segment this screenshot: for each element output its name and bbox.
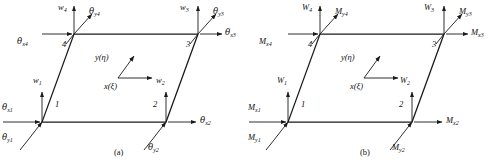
label-theta-x1: θx1 — [2, 103, 13, 112]
label-W1: W1 — [277, 76, 287, 85]
arrow-M-y4 — [320, 14, 338, 34]
label-M-y2: My2 — [392, 143, 405, 152]
label-M-x1: Mx1 — [248, 103, 261, 112]
label-M-y3: My3 — [459, 7, 472, 16]
node-number-1: 1 — [55, 100, 59, 109]
arrow-axis-y — [118, 56, 134, 78]
label-theta-x2: θx2 — [200, 116, 211, 125]
label-M-x4: Mx4 — [259, 37, 272, 46]
caption-b: (b) — [360, 147, 370, 157]
label-M-y4: My4 — [335, 7, 348, 16]
axis-label-x: x(ξ) — [104, 82, 117, 91]
panel-a: w1 θx1 θy1 1 w2 θx2 θy2 2 w3 θx3 θy3 3 w… — [0, 0, 246, 166]
label-theta-y1: θy1 — [2, 133, 13, 142]
axis-label-x: x(ξ) — [350, 82, 363, 91]
label-w2: w2 — [156, 76, 165, 85]
axis-label-y: y(η) — [341, 53, 355, 62]
arrow-M-y1 — [274, 122, 288, 140]
tail-theta-y1 — [20, 140, 28, 150]
node-number-4: 4 — [308, 40, 312, 49]
tail-M-y1 — [266, 140, 274, 150]
label-M-x3: Mx3 — [471, 28, 484, 37]
label-theta-x4: θx4 — [17, 37, 28, 46]
panel-b: W1 Mx1 My1 1 W2 Mx2 My2 2 W3 Mx3 My3 3 W… — [246, 0, 492, 166]
node-number-3: 3 — [186, 40, 190, 49]
arrow-theta-y2 — [152, 122, 166, 140]
label-M-y1: My1 — [248, 133, 261, 142]
label-w1: w1 — [33, 76, 42, 85]
label-w4: w4 — [58, 3, 67, 12]
label-w3: w3 — [180, 3, 189, 12]
label-theta-y2: θy2 — [148, 143, 159, 152]
label-W4: W4 — [302, 3, 312, 12]
arrow-M-y3 — [444, 14, 462, 34]
figure-root: w1 θx1 θy1 1 w2 θx2 θy2 2 w3 θx3 θy3 3 w… — [0, 0, 492, 166]
node-number-1: 1 — [301, 100, 305, 109]
arrow-theta-y1 — [28, 122, 42, 140]
label-M-x2: Mx2 — [446, 116, 459, 125]
arrow-axis-y — [364, 56, 380, 78]
label-theta-y3: θy3 — [213, 7, 224, 16]
arrow-theta-y4 — [74, 14, 92, 34]
label-W3: W3 — [424, 3, 434, 12]
node-number-4: 4 — [62, 40, 66, 49]
node-number-2: 2 — [399, 100, 403, 109]
label-theta-x3: θx3 — [225, 28, 236, 37]
node-number-2: 2 — [153, 100, 157, 109]
label-W2: W2 — [400, 76, 410, 85]
arrow-M-y2 — [398, 122, 412, 140]
label-theta-y4: θy4 — [89, 7, 100, 16]
node-number-3: 3 — [432, 40, 436, 49]
axis-label-y: y(η) — [95, 53, 109, 62]
caption-a: (a) — [114, 147, 123, 157]
arrow-theta-y3 — [198, 14, 216, 34]
